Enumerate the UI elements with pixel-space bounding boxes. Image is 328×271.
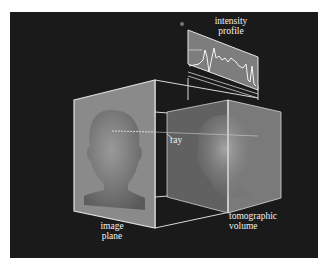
head-silhouette bbox=[84, 110, 145, 210]
image-plane-label-line1: image bbox=[92, 221, 132, 231]
tomographic-volume-label-line1: tomographic bbox=[229, 211, 289, 221]
image-plane bbox=[74, 80, 155, 228]
intensity-profile-label-line1: intensity bbox=[203, 16, 259, 26]
intensity-profile-label-line2: profile bbox=[203, 26, 259, 36]
tomographic-volume bbox=[155, 100, 281, 213]
intensity-profile-label: intensity profile bbox=[203, 16, 259, 36]
light-source-dot bbox=[180, 22, 184, 26]
tomographic-volume-label-line2: volume bbox=[229, 221, 289, 231]
ray-label: ray bbox=[170, 135, 190, 145]
image-plane-label-line2: plane bbox=[92, 231, 132, 241]
tomographic-volume-label: tomographic volume bbox=[229, 211, 289, 231]
image-plane-label: image plane bbox=[92, 221, 132, 241]
